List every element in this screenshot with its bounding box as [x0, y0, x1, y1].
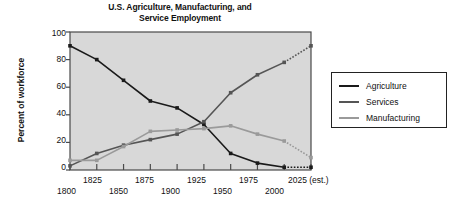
- data-point-marker: [282, 139, 286, 143]
- y-tick-label-100: 100: [44, 28, 66, 38]
- legend-label-services: Services: [366, 97, 399, 107]
- legend-swatch-manufacturing: [339, 117, 359, 119]
- x-tick-label-1975: 1975: [239, 175, 258, 185]
- legend-swatch-agriculture: [339, 85, 359, 87]
- x-tick-label-1950: 1950: [213, 186, 232, 196]
- x-tick-label-1800: 1800: [57, 186, 76, 196]
- data-point-marker: [149, 99, 153, 103]
- legend-item-agriculture[interactable]: Agriculture: [339, 78, 407, 94]
- chart-figure: U.S. Agriculture, Manufacturing, and Ser…: [0, 0, 458, 211]
- data-point-marker: [256, 132, 260, 136]
- data-point-marker: [309, 44, 313, 48]
- data-point-marker: [122, 79, 126, 83]
- legend-item-services[interactable]: Services: [339, 94, 399, 110]
- plot-panel: [70, 32, 311, 170]
- data-point-marker: [229, 152, 233, 156]
- data-point-marker: [95, 152, 99, 156]
- data-point-marker: [95, 159, 99, 163]
- x-tick-label-1925: 1925: [187, 175, 206, 185]
- legend-label-manufacturing: Manufacturing: [366, 113, 420, 123]
- legend-swatch-services: [339, 101, 359, 103]
- y-tick-label-0: 0: [44, 162, 66, 172]
- data-point-marker: [309, 165, 313, 169]
- y-tick-label-40: 40: [44, 108, 66, 118]
- y-tick-label-80: 80: [44, 54, 66, 64]
- legend-label-agriculture: Agriculture: [366, 81, 407, 91]
- chart-legend: Agriculture Services Manufacturing: [331, 72, 447, 128]
- data-point-marker: [68, 44, 72, 48]
- y-tick-label-60: 60: [44, 81, 66, 91]
- x-tick-label-2000: 2000: [265, 186, 284, 196]
- data-point-marker: [175, 132, 179, 136]
- data-point-marker: [256, 73, 260, 77]
- data-point-marker: [68, 159, 72, 163]
- legend-item-manufacturing[interactable]: Manufacturing: [339, 110, 420, 126]
- data-point-marker: [229, 124, 233, 128]
- data-point-marker: [282, 165, 286, 169]
- x-tick-label-1900: 1900: [161, 186, 180, 196]
- data-point-marker: [256, 161, 260, 165]
- data-point-marker: [68, 164, 72, 168]
- data-point-marker: [202, 120, 206, 124]
- data-point-marker: [202, 127, 206, 131]
- y-tick-label-20: 20: [44, 135, 66, 145]
- data-point-marker: [175, 128, 179, 132]
- data-point-marker: [282, 61, 286, 65]
- data-point-marker: [122, 145, 126, 149]
- chart-title-line-2: Service Employment: [139, 13, 221, 23]
- data-point-marker: [229, 91, 233, 95]
- data-point-marker: [309, 156, 313, 160]
- x-tick-label-1850: 1850: [109, 186, 128, 196]
- x-tick-label-1875: 1875: [135, 175, 154, 185]
- chart-title-line-1: U.S. Agriculture, Manufacturing, and: [108, 2, 251, 12]
- data-point-marker: [149, 138, 153, 142]
- data-point-marker: [95, 58, 99, 62]
- x-tick-label-2025: 2025 (est.): [288, 175, 329, 185]
- chart-title: U.S. Agriculture, Manufacturing, and Ser…: [55, 2, 305, 24]
- x-tick-label-1825: 1825: [83, 175, 102, 185]
- data-point-marker: [175, 106, 179, 110]
- y-axis-ticks: 100 80 60 40 20 0: [40, 0, 66, 211]
- data-point-marker: [149, 130, 153, 134]
- y-axis-label: Percent of workforce: [16, 45, 26, 155]
